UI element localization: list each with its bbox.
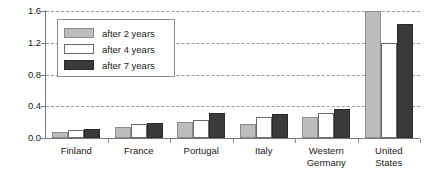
y-axis-tick-label: 0.0: [5, 132, 41, 143]
y-axis-tick: 1.2: [0, 37, 41, 49]
x-axis-category-label: UnitedStates: [358, 145, 421, 168]
bar: [334, 109, 350, 138]
x-axis-tick-mark: [420, 139, 421, 143]
bar: [115, 127, 131, 138]
bar: [318, 113, 334, 138]
bar: [131, 124, 147, 138]
bar: [209, 113, 225, 138]
x-axis-category-label: Italy: [233, 145, 296, 157]
bar: [68, 130, 84, 138]
bar: [52, 132, 68, 138]
bar: [147, 123, 163, 138]
legend-swatch-after-2-years: [64, 28, 94, 38]
y-axis-tick-label: 1.6: [5, 5, 41, 16]
legend-swatch-after-7-years: [64, 60, 94, 70]
bar: [177, 122, 193, 138]
bar: [381, 43, 397, 138]
bar: [84, 129, 100, 138]
bar: [302, 117, 318, 138]
y-axis-tick: 0.8: [0, 69, 41, 81]
bar: [240, 124, 256, 138]
y-axis-tick-label: 1.2: [5, 37, 41, 48]
legend-item: after 2 years: [64, 25, 168, 41]
bar-chart: 0.00.40.81.21.6 FinlandFrancePortugalIta…: [0, 0, 428, 173]
y-axis-line: [45, 10, 46, 139]
bar: [193, 120, 209, 138]
y-axis-tick: 0.0: [0, 132, 41, 144]
x-axis-tick-mark: [170, 139, 171, 143]
x-axis-tick-mark: [233, 139, 234, 143]
legend-swatch-after-4-years: [64, 44, 94, 54]
x-axis-tick-mark: [108, 139, 109, 143]
x-axis-tick-mark: [295, 139, 296, 143]
legend-item: after 4 years: [64, 41, 168, 57]
legend-label-after-4-years: after 4 years: [102, 44, 155, 55]
chart-legend: after 2 years after 4 years after 7 year…: [57, 19, 175, 77]
bar: [397, 24, 413, 138]
y-axis-tick-label: 0.4: [5, 100, 41, 111]
x-axis-category-label: Portugal: [170, 145, 233, 157]
bar: [365, 11, 381, 138]
y-axis-tick: 0.4: [0, 100, 41, 112]
x-axis-category-label: France: [108, 145, 171, 157]
y-axis-tick-label: 0.8: [5, 69, 41, 80]
legend-label-after-2-years: after 2 years: [102, 28, 155, 39]
y-axis-tick: 1.6: [0, 5, 41, 17]
bar: [256, 117, 272, 138]
legend-item: after 7 years: [64, 57, 168, 73]
x-axis-category-label: WesternGermany: [295, 145, 358, 168]
bar: [272, 114, 288, 138]
legend-label-after-7-years: after 7 years: [102, 60, 155, 71]
x-axis-tick-mark: [358, 139, 359, 143]
x-axis-category-label: Finland: [45, 145, 108, 157]
